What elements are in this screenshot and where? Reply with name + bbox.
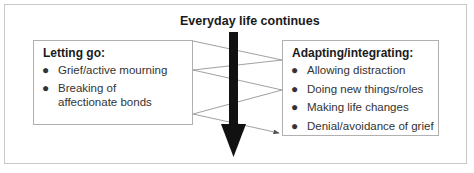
arrow-down-icon [0,0,474,173]
